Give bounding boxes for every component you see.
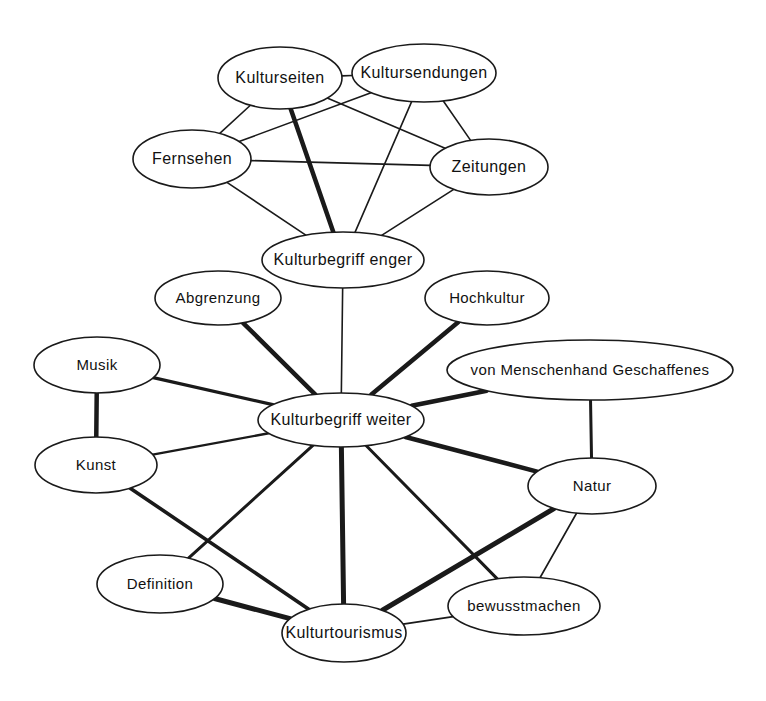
edge-kulturbegriff_weiter-to-definition xyxy=(189,445,313,558)
node-fernsehen[interactable]: Fernsehen xyxy=(133,130,251,188)
node-layer: KulturseitenKultursendungenFernsehenZeit… xyxy=(34,44,733,662)
node-label-abgrenzung: Abgrenzung xyxy=(176,289,261,306)
node-label-kunst: Kunst xyxy=(76,456,117,473)
edge-definition-to-kulturtourismus xyxy=(215,599,291,619)
node-zeitungen[interactable]: Zeitungen xyxy=(430,139,548,195)
node-kulturseiten[interactable]: Kulturseiten xyxy=(218,47,342,109)
node-kultursendungen[interactable]: Kultursendungen xyxy=(352,44,496,102)
edge-von_menschenhand-to-natur xyxy=(591,400,592,458)
edge-kulturseiten-to-zeitungen xyxy=(327,98,445,148)
node-label-fernsehen: Fernsehen xyxy=(152,150,232,167)
node-kulturbegriff_weiter[interactable]: Kulturbegriff weiter xyxy=(258,393,424,447)
node-label-kulturtourismus: Kulturtourismus xyxy=(285,624,402,641)
edge-natur-to-bewusstmachen xyxy=(540,513,577,577)
edge-musik-to-kulturbegriff_weiter xyxy=(153,378,273,405)
network-diagram-canvas: KulturseitenKultursendungenFernsehenZeit… xyxy=(0,0,766,701)
edge-von_menschenhand-to-kulturbegriff_weiter xyxy=(412,391,487,406)
edge-abgrenzung-to-kulturbegriff_weiter xyxy=(243,323,315,395)
edge-fernsehen-to-kulturbegriff_enger xyxy=(227,182,306,235)
node-label-bewusstmachen: bewusstmachen xyxy=(467,597,581,614)
node-natur[interactable]: Natur xyxy=(528,458,656,514)
node-musik[interactable]: Musik xyxy=(34,337,160,393)
edge-bewusstmachen-to-kulturtourismus xyxy=(403,617,453,625)
edge-kulturbegriff_enger-to-kulturbegriff_weiter xyxy=(341,288,342,393)
node-kulturtourismus[interactable]: Kulturtourismus xyxy=(282,604,406,662)
edge-kulturseiten-to-kulturbegriff_enger xyxy=(291,109,334,233)
edge-fernsehen-to-zeitungen xyxy=(251,161,430,166)
node-label-definition: Definition xyxy=(127,575,194,592)
node-label-hochkultur: Hochkultur xyxy=(449,289,525,306)
node-label-kulturbegriff_weiter: Kulturbegriff weiter xyxy=(270,411,411,428)
node-abgrenzung[interactable]: Abgrenzung xyxy=(155,271,281,325)
edge-hochkultur-to-kulturbegriff_weiter xyxy=(371,322,458,395)
network-diagram: KulturseitenKultursendungenFernsehenZeit… xyxy=(0,0,766,701)
node-definition[interactable]: Definition xyxy=(97,555,223,613)
node-kunst[interactable]: Kunst xyxy=(35,437,157,493)
edge-kulturbegriff_weiter-to-kulturtourismus xyxy=(341,447,343,604)
edge-kulturbegriff_weiter-to-natur xyxy=(406,437,538,472)
edge-kultursendungen-to-zeitungen xyxy=(443,101,470,140)
edge-kunst-to-kulturbegriff_weiter xyxy=(153,433,269,454)
node-kulturbegriff_enger[interactable]: Kulturbegriff enger xyxy=(262,232,424,288)
node-label-kulturseiten: Kulturseiten xyxy=(235,69,324,86)
edge-kulturseiten-to-fernsehen xyxy=(220,105,251,133)
edge-zeitungen-to-kulturbegriff_enger xyxy=(382,189,454,235)
node-label-kulturbegriff_enger: Kulturbegriff enger xyxy=(274,251,413,268)
node-von_menschenhand[interactable]: von Menschenhand Geschaffenes xyxy=(447,340,733,400)
edge-kulturbegriff_weiter-to-bewusstmachen xyxy=(366,446,497,579)
node-label-musik: Musik xyxy=(76,356,117,373)
node-label-natur: Natur xyxy=(573,477,612,494)
node-hochkultur[interactable]: Hochkultur xyxy=(425,271,549,325)
node-label-kultursendungen: Kultursendungen xyxy=(361,64,488,81)
node-bewusstmachen[interactable]: bewusstmachen xyxy=(448,577,600,635)
node-label-zeitungen: Zeitungen xyxy=(452,158,527,175)
node-label-von_menschenhand: von Menschenhand Geschaffenes xyxy=(471,361,710,378)
